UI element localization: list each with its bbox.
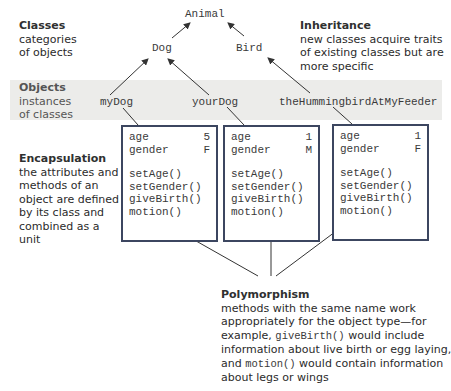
object-name-yourdog: yourDog	[192, 96, 238, 108]
method: motion()	[340, 205, 421, 218]
method: setGender()	[340, 180, 421, 193]
code-givebirth: giveBirth()	[275, 330, 344, 342]
class-node-dog: Dog	[152, 42, 172, 54]
object-box-hummingbird: age1 genderF setAge() setGender() giveBi…	[332, 124, 429, 241]
attribute-row: age1	[231, 131, 312, 144]
method: motion()	[129, 206, 210, 219]
arrow-dog-animal	[172, 23, 190, 38]
attribute-row: genderF	[340, 143, 421, 156]
class-node-animal: Animal	[185, 8, 225, 20]
arrow-yourdog-dog	[168, 59, 209, 95]
polymorphism-title: Polymorphism	[221, 288, 451, 302]
method: giveBirth()	[340, 192, 421, 205]
method: motion()	[231, 206, 312, 219]
method: setAge()	[231, 168, 312, 181]
inheritance-title: Inheritance	[300, 19, 444, 33]
encapsulation-label: Encapsulation the attributes and methods…	[19, 152, 119, 247]
objects-title: Objects	[19, 81, 73, 95]
method: giveBirth()	[231, 193, 312, 206]
method: setGender()	[129, 181, 210, 194]
object-box-yourdog: age1 genderM setAge() setGender() giveBi…	[223, 125, 320, 242]
attribute-row: age5	[129, 131, 210, 144]
classes-title: Classes	[19, 19, 77, 33]
classes-label: Classes categories of objects	[19, 19, 77, 60]
polymorphism-label: Polymorphism methods with the same name …	[221, 288, 451, 385]
attribute-row: genderM	[231, 144, 312, 157]
object-box-mydog: age5 genderF setAge() setGender() giveBi…	[121, 125, 218, 242]
attribute-row: age1	[340, 130, 421, 143]
attribute-row: genderF	[129, 144, 210, 157]
code-motion: motion()	[245, 358, 295, 370]
inheritance-label: Inheritance new classes acquire traits o…	[300, 19, 444, 73]
method: setAge()	[340, 167, 421, 180]
class-node-bird: Bird	[236, 42, 262, 54]
method: giveBirth()	[129, 193, 210, 206]
arrow-mydog-dog	[110, 59, 148, 95]
method: setGender()	[231, 181, 312, 194]
encapsulation-title: Encapsulation	[19, 152, 119, 166]
object-name-hummingbird: theHummingbirdAtMyFeeder	[279, 96, 437, 108]
method: setAge()	[129, 168, 210, 181]
objects-label: Objects instances of classes	[19, 81, 73, 122]
object-name-mydog: myDog	[100, 96, 133, 108]
arrow-bird-animal	[228, 23, 244, 36]
